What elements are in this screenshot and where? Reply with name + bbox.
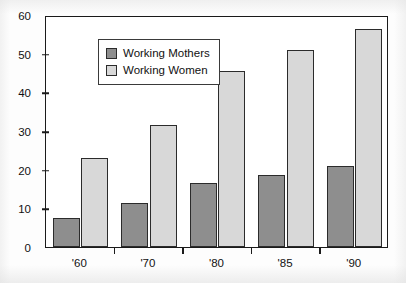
chart-page: 0102030405060 Working Mothers Working Wo… (0, 0, 406, 283)
y-axis-tick-label: 20 (18, 165, 31, 177)
legend-item: Working Women (106, 62, 210, 79)
x-axis-tick-mark (319, 247, 321, 254)
plot-area: Working Mothers Working Women (45, 16, 388, 248)
y-axis-tick-label: 30 (18, 126, 31, 138)
x-axis-tick-mark (114, 247, 116, 254)
legend-swatch-icon (106, 48, 117, 59)
y-axis-tick-mark (42, 54, 49, 56)
y-axis-tick-label: 10 (18, 203, 31, 215)
bar-working-mothers-85 (258, 175, 285, 247)
y-axis-tick-label: 60 (18, 10, 31, 22)
bar-working-mothers-70 (121, 203, 148, 247)
x-axis-tick-label: '85 (278, 257, 293, 269)
x-axis-tick-mark (251, 247, 253, 254)
y-axis-tick-label: 40 (18, 87, 31, 99)
y-axis: 0102030405060 (0, 0, 45, 283)
y-axis-tick-mark (42, 93, 49, 95)
bar-working-mothers-80 (190, 183, 217, 247)
legend-item: Working Mothers (106, 45, 210, 62)
x-axis-tick-mark (182, 247, 184, 254)
legend-item-label: Working Mothers (123, 48, 210, 60)
bar-working-women-80 (218, 71, 245, 247)
y-axis-tick-mark (42, 131, 49, 133)
y-axis-tick-mark (42, 170, 49, 172)
legend: Working Mothers Working Women (98, 39, 220, 85)
bar-working-women-90 (355, 29, 382, 247)
y-axis-tick-label: 50 (18, 49, 31, 61)
legend-item-label: Working Women (123, 65, 208, 77)
bar-working-women-60 (81, 158, 108, 247)
y-axis-tick-mark (42, 209, 49, 211)
legend-swatch-icon (106, 65, 117, 76)
bar-working-mothers-60 (53, 218, 80, 247)
bar-working-women-85 (287, 50, 314, 247)
x-axis-tick-label: '60 (72, 257, 87, 269)
x-axis-tick-label: '70 (140, 257, 155, 269)
x-axis-tick-label: '90 (346, 257, 361, 269)
x-axis-tick-label: '80 (209, 257, 224, 269)
bar-working-mothers-90 (327, 166, 354, 247)
y-axis-tick-label: 0 (25, 242, 31, 254)
bar-working-women-70 (150, 125, 177, 247)
